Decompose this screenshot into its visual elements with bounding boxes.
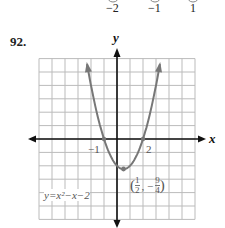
- top-label-2: −1: [148, 1, 161, 16]
- root-label-right: 2: [146, 143, 152, 155]
- vertex-x-fraction: 1 2: [135, 176, 140, 195]
- equation-label: y=x²−x−2: [44, 189, 90, 201]
- vertex-point: [121, 167, 126, 172]
- vertex-paren-close: ): [160, 177, 165, 194]
- vertex-x-den: 2: [135, 186, 140, 195]
- x-axis-left-arrow-icon: [28, 136, 36, 143]
- top-label-1: −2: [106, 1, 119, 16]
- root-point-right: [141, 137, 145, 141]
- x-axis-right-arrow-icon: [198, 136, 206, 143]
- vertex-sep: , −: [142, 180, 154, 192]
- y-axis-label: y: [113, 30, 119, 46]
- root-label-left: −1: [88, 143, 100, 155]
- y-axis-down-arrow-icon: [114, 220, 121, 228]
- root-point-left: [102, 137, 106, 141]
- x-axis-label: x: [209, 131, 216, 147]
- y-axis-up-arrow-icon: [114, 48, 121, 57]
- top-label-3: 1: [190, 1, 196, 16]
- vertex-label: ( 1 2 , − 9 4 ): [130, 176, 165, 195]
- problem-number: 92.: [10, 34, 26, 50]
